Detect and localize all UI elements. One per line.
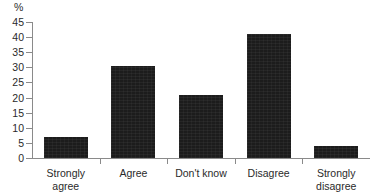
x-axis-category-label: Don't know	[167, 167, 235, 180]
bar	[247, 34, 291, 158]
x-axis-tick	[235, 159, 236, 164]
x-axis-tick	[302, 159, 303, 164]
y-axis-tick-label: 30	[2, 62, 24, 73]
y-axis-tick-label: 45	[2, 17, 24, 28]
y-axis-tick-label: 20	[2, 93, 24, 104]
x-axis-category-label: Agree	[100, 167, 168, 180]
bar	[314, 146, 358, 158]
y-axis-tick-label: 5	[2, 138, 24, 149]
y-axis-tick-label: 0	[2, 153, 24, 164]
x-axis-category-label: Strongly agree	[32, 167, 100, 192]
y-axis-tick-label: 40	[2, 32, 24, 43]
y-axis-tick-label: 35	[2, 47, 24, 58]
x-axis-category-label: Strongly disagree	[302, 167, 370, 192]
x-axis-line	[32, 158, 370, 159]
x-axis-tick	[167, 159, 168, 164]
y-axis-unit-label: %	[14, 2, 23, 13]
y-axis-tick-label: 10	[2, 123, 24, 134]
plot-area	[32, 22, 370, 158]
bar	[179, 95, 223, 158]
x-axis-tick	[100, 159, 101, 164]
y-axis-tick	[26, 158, 32, 159]
bar	[111, 66, 155, 158]
y-axis-tick-label: 25	[2, 77, 24, 88]
x-axis-category-label: Disagree	[235, 167, 303, 180]
bar	[44, 137, 88, 158]
y-axis-tick-label: 15	[2, 108, 24, 119]
bar-chart: % 051015202530354045 Strongly agreeAgree…	[0, 0, 372, 195]
